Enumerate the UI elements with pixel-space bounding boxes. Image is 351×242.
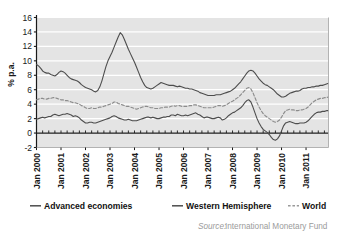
y-tick-label: -2: [24, 143, 32, 153]
legend-label-world: World: [302, 201, 326, 211]
legend-label-western-hemisphere: Western Hemisphere: [186, 201, 272, 211]
imf-inflation-line-chart: 1614121086420-2 Jan 2000Jan 2001Jan 2002…: [0, 0, 351, 242]
plot-area-background: [37, 18, 329, 148]
x-tick-label: Jan 2011: [301, 153, 311, 189]
x-tick-label: Jan 2005: [154, 153, 164, 189]
source-prefix-text: Source:: [198, 222, 226, 231]
x-tick-label: Jan 2001: [56, 153, 66, 189]
y-tick-label: 0: [27, 128, 32, 138]
y-tick-label: 4: [27, 99, 32, 109]
x-tick-label: Jan 2003: [105, 153, 115, 189]
x-tick-label: Jan 2000: [32, 153, 42, 189]
legend-label-advanced-economies: Advanced economies: [44, 201, 133, 211]
y-axis-title-text: % p.a.: [6, 62, 16, 87]
x-tick-label: Jan 2004: [130, 153, 140, 189]
x-tick-label: Jan 2002: [81, 153, 91, 189]
y-tick-label: 10: [23, 56, 33, 66]
y-tick-label: 6: [27, 85, 32, 95]
y-tick-label: 2: [27, 114, 32, 124]
y-tick-label: 12: [23, 41, 33, 51]
y-tick-label: 16: [23, 13, 33, 23]
y-tick-label: 14: [23, 27, 33, 37]
x-tick-label: Jan 2006: [179, 153, 189, 189]
chart-figure: 1614121086420-2 Jan 2000Jan 2001Jan 2002…: [0, 0, 351, 242]
source-body-text: International Monetary Fund: [225, 222, 328, 231]
plot-background-rect: [37, 18, 329, 148]
x-tick-label: Jan 2009: [252, 153, 262, 189]
y-tick-label: 8: [27, 70, 32, 80]
source-note: Source:International Monetary Fund: [198, 222, 328, 231]
x-tick-label: Jan 2010: [277, 153, 287, 189]
y-axis-title: % p.a.: [6, 62, 16, 87]
x-tick-label: Jan 2007: [203, 153, 213, 189]
x-tick-label: Jan 2008: [228, 153, 238, 189]
